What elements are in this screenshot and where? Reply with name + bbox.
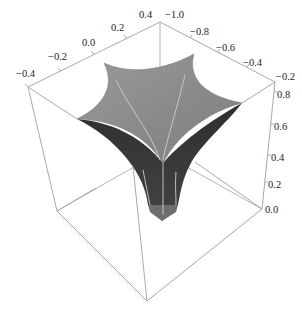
y-tick-label: −0.8 [190,26,209,37]
y-tick-label: −0.2 [276,71,295,82]
surface-plot-3d: −0.4 −0.2 0.0 0.2 0.4 −1.0 −0.8 −0.6 −0.… [0,0,302,314]
y-tick-label: −0.6 [216,42,235,53]
x-tick-label: −0.4 [16,68,36,79]
z-tick-label: 0.8 [277,89,290,100]
z-axis-labels: 0.8 0.6 0.4 0.2 0.0 [265,89,290,215]
y-tick-label: −0.4 [243,57,263,68]
z-tick-label: 0.2 [268,179,281,190]
y-tick-label: −1.0 [165,9,184,20]
z-tick-label: 0.6 [274,121,287,132]
x-tick-label: 0.2 [111,22,124,33]
z-tick-label: 0.4 [271,152,285,163]
x-tick-label: 0.4 [139,9,153,20]
x-axis-labels: −0.4 −0.2 0.0 0.2 0.4 [16,9,153,79]
x-tick-label: 0.0 [82,37,95,48]
surface-top-cap [77,54,242,163]
z-tick-label: 0.0 [265,204,278,215]
surface-body [77,54,242,221]
x-tick-label: −0.2 [48,51,67,62]
